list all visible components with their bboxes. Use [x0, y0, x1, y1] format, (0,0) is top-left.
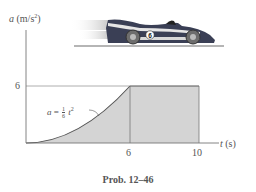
- y-axis-label: a (m/s2): [9, 13, 41, 24]
- x-tick-6: 6: [126, 147, 131, 158]
- equation-leader-line: [89, 110, 99, 116]
- motion-blur: [78, 31, 110, 39]
- car-number: 6: [148, 32, 152, 39]
- equation-label: a = 16 t2: [47, 106, 74, 119]
- figure-caption: Prob. 12–46: [0, 174, 256, 185]
- x-tick-10: 10: [192, 147, 202, 158]
- area-under-parabola: [26, 86, 130, 143]
- front-wheel-hub: [190, 34, 196, 40]
- equation-fraction: 16: [62, 106, 65, 119]
- x-axis-label: t (s): [220, 138, 236, 149]
- diagram-canvas: 6: [0, 0, 256, 192]
- rear-wheel-hub: [130, 34, 136, 40]
- motion-blur: [70, 20, 110, 30]
- y-tick-6: 6: [15, 80, 20, 91]
- race-car-illustration: 6: [70, 20, 224, 48]
- ground-line: [74, 45, 224, 47]
- area-under-constant: [130, 86, 199, 143]
